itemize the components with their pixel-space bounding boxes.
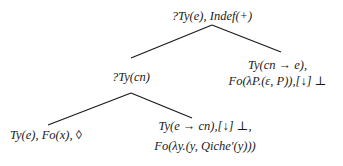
- left-leaf-label: Ty(e), Fo(x), ◊: [10, 127, 110, 143]
- right-node-line2: Fo(λP.(ε, P)),[↓] ⊥: [215, 73, 340, 89]
- bottom-right-line1: Ty(e → cn),[↓] ⊥,: [135, 118, 275, 134]
- edge-root-to-right: [212, 25, 281, 52]
- edge-cn-to-bottom-right: [131, 93, 192, 118]
- bottom-right-line2: Fo(λy.(y, Qiche′(y))): [135, 138, 275, 154]
- right-node: Ty(cn → e), Fo(λP.(ε, P)),[↓] ⊥: [215, 57, 340, 89]
- left-leaf-node: Ty(e), Fo(x), ◊: [2, 127, 110, 143]
- root-node-label: ?Ty(e), Indef(+): [152, 8, 272, 24]
- bottom-right-node: Ty(e → cn),[↓] ⊥, Fo(λy.(y, Qiche′(y))): [135, 118, 275, 154]
- edge-cn-to-left-leaf: [48, 93, 131, 125]
- root-node: ?Ty(e), Indef(+): [152, 8, 272, 24]
- cn-node-label: ?Ty(cn): [96, 69, 166, 85]
- cn-node: ?Ty(cn): [96, 69, 166, 85]
- right-node-line1: Ty(cn → e),: [215, 57, 340, 73]
- edge-root-to-cn: [131, 25, 212, 58]
